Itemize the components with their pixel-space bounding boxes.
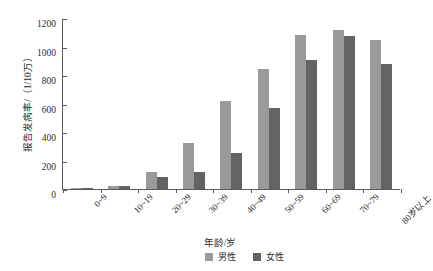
bar-group xyxy=(175,19,212,189)
plot-area: 020040060080010001200 xyxy=(62,19,400,190)
bar-group xyxy=(213,19,250,189)
bar-group xyxy=(250,19,287,189)
bar-group xyxy=(63,19,100,189)
bar-male xyxy=(220,101,231,189)
legend-label-female: 女性 xyxy=(266,250,284,263)
bar-female xyxy=(119,186,130,189)
bar-group xyxy=(325,19,362,189)
bar-group xyxy=(288,19,325,189)
bar-male xyxy=(333,30,344,189)
x-tick-mark-icon xyxy=(401,189,402,193)
x-tick-label: 50~59 xyxy=(282,192,305,215)
bar-male xyxy=(295,35,306,189)
x-tick-label: 30~39 xyxy=(207,192,230,215)
x-tick-label: 20~29 xyxy=(170,192,193,215)
x-tick-label: 70~79 xyxy=(357,192,380,215)
bar-group xyxy=(138,19,175,189)
bar-male xyxy=(370,40,381,189)
chart-legend: 男性 女性 xyxy=(205,250,284,263)
legend-swatch-female-icon xyxy=(253,253,261,261)
bar-female xyxy=(306,60,317,189)
legend-item-male: 男性 xyxy=(205,250,236,263)
x-tick-label: 0~9 xyxy=(92,192,109,209)
bar-female xyxy=(157,177,168,189)
bar-female xyxy=(194,172,205,189)
bar-female xyxy=(269,108,280,189)
bar-male xyxy=(108,186,119,189)
y-axis-title: 报告发病率/（1/10万） xyxy=(20,17,34,187)
bar-female xyxy=(344,36,355,189)
bar-group xyxy=(363,19,400,189)
x-tick-label: 40~49 xyxy=(245,192,268,215)
bar-male xyxy=(258,69,269,189)
legend-item-female: 女性 xyxy=(253,250,284,263)
x-tick-label: 80岁以上 xyxy=(399,192,433,227)
legend-swatch-male-icon xyxy=(205,253,213,261)
x-tick-label: 60~69 xyxy=(320,192,343,215)
bar-female xyxy=(381,64,392,189)
bar-male xyxy=(183,143,194,189)
x-axis-title: 年龄/岁 xyxy=(120,235,320,249)
bar-groups xyxy=(63,19,400,189)
bar-female xyxy=(231,153,242,189)
bar-male xyxy=(71,188,82,189)
legend-label-male: 男性 xyxy=(218,250,236,263)
bar-male xyxy=(146,172,157,189)
bar-female xyxy=(82,188,93,189)
x-tick-label: 10~19 xyxy=(132,192,155,215)
bar-group xyxy=(100,19,137,189)
